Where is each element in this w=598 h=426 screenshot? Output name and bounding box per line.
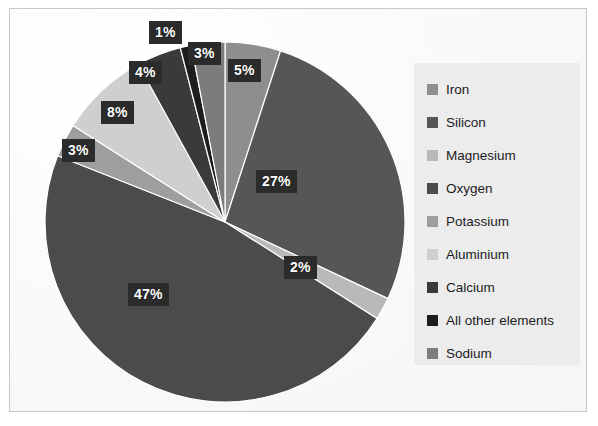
legend-swatch-icon [427, 117, 438, 128]
slice-label-oxygen: 47% [128, 283, 169, 306]
legend-item-label: Magnesium [446, 149, 516, 163]
slice-label-aluminium: 8% [101, 101, 134, 124]
legend-swatch-icon [427, 249, 438, 260]
slice-label-all-other-elements: 1% [149, 21, 182, 44]
pie-chart: 5% 27% 2% 47% 3% 8% 4% 1% 3% [10, 9, 410, 412]
legend: IronSiliconMagnesiumOxygenPotassiumAlumi… [414, 63, 580, 365]
legend-swatch-icon [427, 216, 438, 227]
legend-item-label: Aluminium [446, 248, 509, 262]
legend-item-silicon[interactable]: Silicon [427, 106, 580, 139]
legend-swatch-icon [427, 84, 438, 95]
legend-item-aluminium[interactable]: Aluminium [427, 238, 580, 271]
legend-swatch-icon [427, 282, 438, 293]
legend-item-label: Silicon [446, 116, 486, 130]
legend-item-iron[interactable]: Iron [427, 73, 580, 106]
legend-swatch-icon [427, 348, 438, 359]
pie-svg [10, 9, 410, 412]
legend-item-label: Potassium [446, 215, 509, 229]
legend-swatch-icon [427, 315, 438, 326]
legend-item-all-other-elements[interactable]: All other elements [427, 304, 580, 337]
legend-item-magnesium[interactable]: Magnesium [427, 139, 580, 172]
slice-label-magnesium: 2% [284, 256, 317, 279]
slice-label-iron: 5% [228, 59, 261, 82]
legend-item-oxygen[interactable]: Oxygen [427, 172, 580, 205]
slice-label-silicon: 27% [256, 170, 297, 193]
slice-label-calcium: 4% [129, 61, 162, 84]
slice-label-potassium: 3% [62, 139, 95, 162]
chart-frame: 5% 27% 2% 47% 3% 8% 4% 1% 3% IronSilicon… [9, 8, 587, 412]
legend-item-calcium[interactable]: Calcium [427, 271, 580, 304]
legend-item-label: Iron [446, 83, 469, 97]
legend-item-potassium[interactable]: Potassium [427, 205, 580, 238]
legend-item-label: Calcium [446, 281, 495, 295]
legend-item-label: Sodium [446, 347, 492, 361]
legend-item-sodium[interactable]: Sodium [427, 337, 580, 370]
legend-item-label: Oxygen [446, 182, 493, 196]
legend-item-label: All other elements [446, 314, 554, 328]
pie-slice-group [45, 42, 405, 402]
slice-label-sodium: 3% [188, 42, 221, 65]
legend-swatch-icon [427, 183, 438, 194]
legend-swatch-icon [427, 150, 438, 161]
